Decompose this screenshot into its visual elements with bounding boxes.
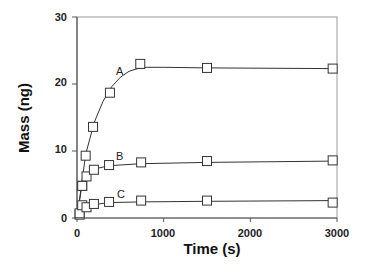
data-point-marker [328, 198, 337, 207]
x-tick-label-3000: 3000 [325, 227, 349, 239]
data-point-marker [81, 151, 90, 160]
data-point-marker [203, 63, 212, 72]
series-line-b [77, 161, 333, 218]
y-axis-title: Mass (ng) [15, 83, 32, 153]
data-point-marker [105, 197, 114, 206]
series-line-a [77, 67, 333, 218]
y-tick-label-30: 30 [55, 11, 67, 23]
series-lines [77, 67, 333, 218]
series-label-a: A [116, 65, 124, 77]
x-axis-title: Time (s) [183, 240, 240, 257]
data-point-marker [203, 196, 212, 205]
data-point-marker [137, 196, 146, 205]
data-point-marker [105, 88, 114, 97]
data-point-marker [89, 122, 98, 131]
data-point-marker [89, 199, 98, 208]
x-tick-label-2000: 2000 [238, 227, 262, 239]
y-tick-label-20: 20 [55, 76, 67, 88]
series-label-c: C [117, 188, 125, 200]
data-point-marker [328, 64, 337, 73]
data-point-marker [137, 158, 146, 167]
x-tick-label-1000: 1000 [151, 227, 175, 239]
y-tick-label-10: 10 [55, 143, 67, 155]
ticks [72, 17, 337, 222]
data-point-marker [203, 157, 212, 166]
x-tick-label-0: 0 [74, 227, 80, 239]
plot-frame [77, 17, 337, 218]
series-label-b: B [116, 150, 123, 162]
y-tick-label-0: 0 [61, 212, 67, 224]
data-point-marker [78, 181, 87, 190]
plot-border [77, 17, 337, 218]
data-point-marker [136, 59, 145, 68]
data-point-marker [89, 165, 98, 174]
data-point-marker [105, 161, 114, 170]
data-point-marker [328, 156, 337, 165]
chart-svg: 0 10 20 30 0 1000 2000 3000 Time (s) Mas… [0, 0, 365, 269]
